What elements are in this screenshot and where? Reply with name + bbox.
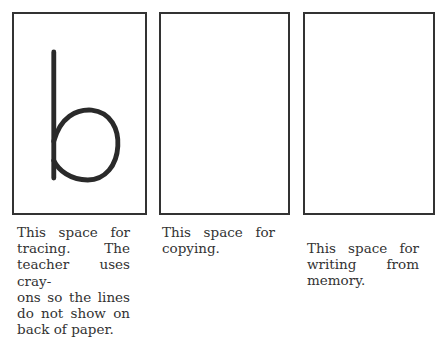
caption-line: writing from bbox=[307, 256, 419, 272]
tracing-caption: This space for tracing. The teacher uses… bbox=[17, 224, 130, 337]
caption-line: This space for bbox=[17, 224, 130, 240]
caption-line: copying. bbox=[162, 240, 275, 256]
copying-caption: This space for copying. bbox=[162, 224, 275, 256]
memory-box bbox=[303, 12, 435, 215]
caption-line: tracing. The bbox=[17, 240, 130, 256]
caption-line: back of paper. bbox=[17, 321, 130, 337]
caption-line: This space for bbox=[162, 224, 275, 240]
caption-line: memory. bbox=[307, 272, 419, 288]
caption-line: do not show on bbox=[17, 305, 130, 321]
caption-line: ons so the lines bbox=[17, 289, 130, 305]
letter-b-glyph bbox=[14, 14, 145, 213]
tracing-box bbox=[12, 12, 147, 215]
memory-caption: This space for writing from memory. bbox=[307, 240, 419, 289]
caption-line: teacher uses cray- bbox=[17, 256, 130, 288]
caption-line: This space for bbox=[307, 240, 419, 256]
copying-box bbox=[159, 12, 290, 215]
